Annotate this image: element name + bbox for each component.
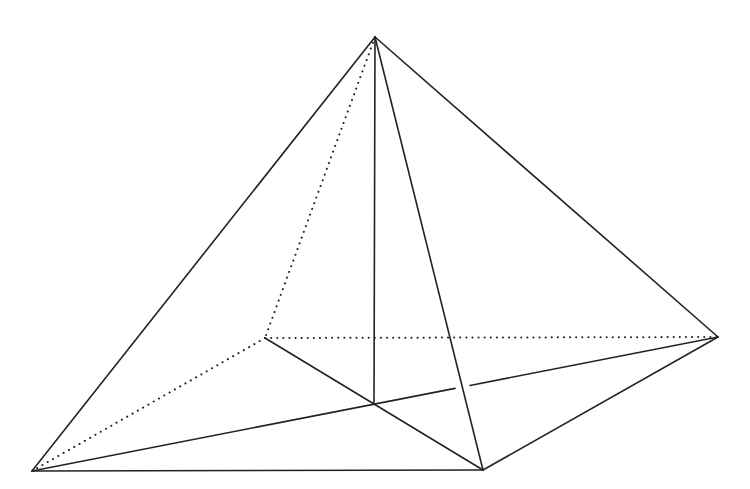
hidden-edge-back-left xyxy=(32,338,265,471)
edge-center-bottom xyxy=(374,404,483,470)
hidden-edge-back-right xyxy=(265,337,718,338)
edge-bottom-right xyxy=(483,337,718,470)
edge-left-right-part2 xyxy=(470,337,718,385)
edge-apex-right xyxy=(375,37,718,337)
edge-left-right-part1 xyxy=(32,388,455,471)
edge-apex-center xyxy=(374,37,375,404)
edge-apex-left xyxy=(32,37,375,471)
pyramid-diagram xyxy=(0,0,750,489)
edge-apex-bottom xyxy=(375,37,483,470)
pyramid-figure xyxy=(0,0,750,489)
hidden-edge-apex-back xyxy=(265,37,375,338)
edge-left-bottom xyxy=(32,470,483,471)
edge-back-center xyxy=(265,338,374,404)
